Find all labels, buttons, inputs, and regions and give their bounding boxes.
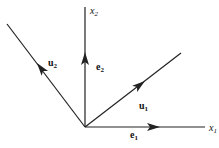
x1-axis-label: x1: [208, 122, 217, 135]
x2-axis-label: x2: [89, 5, 98, 18]
u2-label: u2: [48, 57, 58, 70]
e1-label: e1: [130, 129, 138, 142]
u1-label: u1: [139, 100, 149, 113]
e2-label: e2: [96, 61, 104, 74]
u2-line: [7, 24, 85, 127]
basis-diagram: x2 x1 e1 e2 u1 u2: [0, 0, 219, 148]
